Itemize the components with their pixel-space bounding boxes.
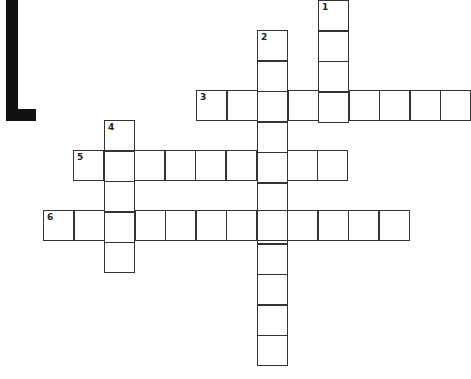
crossword-cell[interactable]: [257, 152, 288, 183]
crossword-cell[interactable]: [257, 91, 288, 122]
clue-number: 3: [200, 93, 206, 102]
clue-number: 5: [77, 153, 83, 162]
clue-number: 2: [261, 33, 267, 42]
crossword-cell[interactable]: [226, 210, 257, 241]
clue-number: 1: [322, 3, 328, 12]
crossword-cell[interactable]: [257, 335, 288, 366]
crossword-cell[interactable]: [104, 151, 135, 182]
crossword-cell[interactable]: [318, 210, 349, 241]
crossword-cell[interactable]: [348, 210, 379, 241]
crossword-cell[interactable]: 6: [43, 210, 74, 241]
corner-bracket-vertical: [6, 0, 18, 121]
crossword-cell[interactable]: [257, 61, 288, 92]
crossword-cell[interactable]: [226, 150, 257, 181]
crossword-cell[interactable]: [257, 244, 288, 275]
crossword-cell[interactable]: 2: [257, 30, 288, 61]
crossword-cell[interactable]: 3: [196, 90, 227, 121]
crossword-cell[interactable]: [318, 92, 349, 123]
crossword-cell[interactable]: [317, 150, 348, 181]
crossword-cell[interactable]: 1: [318, 0, 349, 31]
crossword-cell[interactable]: [288, 90, 319, 121]
crossword-cell[interactable]: [74, 210, 105, 241]
crossword-cell[interactable]: [410, 90, 441, 121]
crossword-cell[interactable]: [135, 210, 166, 241]
crossword-cell[interactable]: [104, 212, 135, 243]
clue-number: 6: [47, 213, 53, 222]
crossword-cell[interactable]: [318, 61, 349, 92]
crossword-cell[interactable]: [318, 31, 349, 62]
crossword-cell[interactable]: [165, 150, 196, 181]
crossword-cell[interactable]: [134, 150, 165, 181]
crossword-cell[interactable]: [257, 210, 288, 241]
crossword-cell[interactable]: [104, 181, 135, 212]
crossword-cell[interactable]: [165, 210, 196, 241]
crossword-cell[interactable]: [196, 210, 227, 241]
crossword-cell[interactable]: [257, 274, 288, 305]
crossword-cell[interactable]: [287, 150, 318, 181]
crossword-cell[interactable]: 4: [104, 120, 135, 151]
crossword-cell[interactable]: [349, 90, 380, 121]
crossword-cell[interactable]: [257, 122, 288, 153]
clue-number: 4: [108, 123, 114, 132]
crossword-cell[interactable]: [195, 150, 226, 181]
crossword-cell[interactable]: [440, 90, 471, 121]
crossword-cell[interactable]: [104, 242, 135, 273]
corner-bracket-horizontal: [6, 109, 36, 121]
crossword-cell[interactable]: [379, 90, 410, 121]
crossword-cell[interactable]: [257, 305, 288, 336]
crossword-cell[interactable]: [227, 90, 258, 121]
crossword-cell[interactable]: [287, 210, 318, 241]
crossword-cell[interactable]: 5: [73, 150, 104, 181]
crossword-cell[interactable]: [379, 210, 410, 241]
